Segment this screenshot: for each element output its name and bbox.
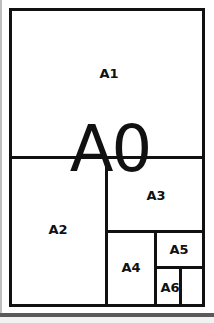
label-a1: A1 <box>99 66 118 81</box>
label-a6: A6 <box>160 280 179 295</box>
label-a2: A2 <box>48 222 67 237</box>
bottom-edge-margin <box>0 317 214 323</box>
label-a5: A5 <box>169 242 188 257</box>
page-edge-shadow <box>0 0 2 323</box>
label-a0: A0 <box>70 117 151 181</box>
label-a3: A3 <box>146 188 165 203</box>
label-a4: A4 <box>121 260 140 275</box>
